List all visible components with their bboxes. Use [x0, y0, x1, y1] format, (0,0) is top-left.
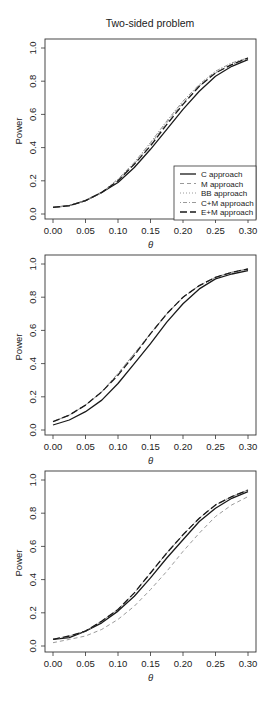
- y-tick-label: 0.4: [27, 141, 38, 154]
- x-tick-label: 0.05: [76, 441, 95, 452]
- y-tick-label: 0.4: [27, 357, 38, 370]
- x-tick-label: 0.10: [109, 658, 128, 669]
- x-tick-label: 0.15: [141, 658, 160, 669]
- panel-3-chart: 0.00.20.40.60.81.0Power0.000.050.100.150…: [13, 471, 257, 683]
- legend-label: C approach: [201, 170, 242, 179]
- series-m-approach: [53, 497, 248, 643]
- x-tick-label: 0.25: [206, 658, 225, 669]
- legend-label: C+M approach: [201, 199, 254, 208]
- series-e-m-approach: [53, 269, 248, 422]
- series-c-approach: [53, 271, 248, 425]
- y-tick-label: 0.2: [27, 606, 38, 619]
- y-tick-label: 0.6: [27, 540, 38, 553]
- legend-label: M approach: [201, 180, 243, 189]
- y-tick-label: 0.4: [27, 573, 38, 586]
- y-tick-label: 1.0: [27, 41, 38, 54]
- y-tick-label: 0.8: [27, 291, 38, 304]
- legend-label: E+M approach: [201, 208, 253, 217]
- y-tick-label: 1.0: [27, 257, 38, 270]
- y-tick-label: 1.0: [27, 473, 38, 486]
- series-c-m-approach: [53, 269, 248, 422]
- y-axis-label: Power: [13, 334, 24, 361]
- y-tick-label: 0.2: [27, 174, 38, 187]
- x-tick-label: 0.00: [44, 441, 63, 452]
- x-tick-label: 0.10: [109, 225, 128, 236]
- y-tick-label: 0.0: [27, 639, 38, 652]
- x-tick-label: 0.00: [44, 225, 63, 236]
- x-tick-label: 0.05: [76, 225, 95, 236]
- series-m-approach: [53, 269, 248, 422]
- series-bb-approach: [53, 490, 248, 639]
- plot-frame: [45, 471, 256, 652]
- y-tick-label: 0.2: [27, 390, 38, 403]
- x-tick-label: 0.00: [44, 658, 63, 669]
- figure-title: Two-sided problem: [106, 17, 195, 29]
- x-tick-label: 0.10: [109, 441, 128, 452]
- y-tick-label: 0.6: [27, 324, 38, 337]
- y-tick-label: 0.8: [27, 75, 38, 88]
- legend: C approachM approachBB approachC+M appro…: [174, 166, 256, 220]
- x-tick-label: 0.30: [239, 225, 258, 236]
- x-tick-label: 0.30: [239, 441, 258, 452]
- plot-frame: [45, 255, 256, 435]
- x-axis-label: θ: [148, 455, 154, 466]
- y-tick-label: 0.6: [27, 108, 38, 121]
- y-tick-label: 0.0: [27, 423, 38, 436]
- y-tick-label: 0.0: [27, 207, 38, 220]
- x-axis-label: θ: [148, 672, 154, 683]
- y-axis-label: Power: [13, 550, 24, 577]
- x-tick-label: 0.20: [174, 658, 193, 669]
- x-tick-label: 0.30: [239, 658, 258, 669]
- x-tick-label: 0.15: [141, 225, 160, 236]
- x-tick-label: 0.25: [206, 225, 225, 236]
- series-bb-approach: [53, 269, 248, 422]
- series-c-approach: [53, 492, 248, 640]
- y-axis-label: Power: [13, 118, 24, 145]
- panel-1-chart: 0.00.20.40.60.81.0Power0.000.050.100.150…: [13, 39, 257, 250]
- legend-label: BB approach: [201, 189, 247, 198]
- x-axis-label: θ: [148, 239, 154, 250]
- x-tick-label: 0.25: [206, 441, 225, 452]
- x-tick-label: 0.20: [174, 225, 193, 236]
- x-tick-label: 0.05: [76, 658, 95, 669]
- series-e-m-approach: [53, 490, 248, 639]
- panel-2-chart: 0.00.20.40.60.81.0Power0.000.050.100.150…: [13, 255, 257, 466]
- x-tick-label: 0.20: [174, 441, 193, 452]
- x-tick-label: 0.15: [141, 441, 160, 452]
- y-tick-label: 0.8: [27, 507, 38, 520]
- series-c-m-approach: [53, 490, 248, 639]
- power-figure: Two-sided problem 0.00.20.40.60.81.0Powe…: [0, 0, 270, 707]
